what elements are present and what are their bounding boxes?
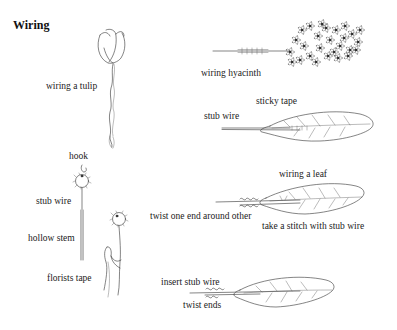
hyacinth-floret-center xyxy=(357,41,359,43)
label-twist-ends: twist ends xyxy=(183,301,221,311)
hyacinth-floret-center xyxy=(291,61,293,63)
label-wiring-hyacinth: wiring hyacinth xyxy=(201,69,261,79)
hyacinth-floret-center xyxy=(349,49,351,51)
label-twist-one-end: twist one end around other xyxy=(150,212,251,222)
hyacinth-floret-center xyxy=(333,51,335,53)
hyacinth-floret-center xyxy=(301,29,303,31)
hyacinth-floret-center xyxy=(309,55,311,57)
hyacinth-floret-center xyxy=(359,29,361,31)
hyacinth-floret-center xyxy=(339,45,341,47)
label-wiring-a-tulip: wiring a tulip xyxy=(46,82,97,92)
hyacinth-floret-center xyxy=(325,27,327,29)
hyacinth-floret-center xyxy=(289,51,291,53)
taped-flower-illustration xyxy=(104,211,128,297)
label-stub-wire-leaf: stub wire xyxy=(204,112,239,122)
hyacinth-floret-center xyxy=(329,39,331,41)
tulip-illustration xyxy=(98,29,125,148)
label-hook: hook xyxy=(69,152,88,162)
hyacinth-floret-center xyxy=(347,55,349,57)
label-hollow-stem: hollow stem xyxy=(28,234,75,244)
hyacinth-floret-center xyxy=(327,55,329,57)
hyacinth-floret-center xyxy=(315,61,317,63)
label-florists-tape: florists tape xyxy=(47,274,92,284)
hyacinth-floret-center xyxy=(319,47,321,49)
hyacinth-floret-center xyxy=(299,59,301,61)
leaf-tape-illustration xyxy=(222,112,373,141)
hyacinth-floret-center xyxy=(309,25,311,27)
hook-flower-illustration xyxy=(73,165,91,260)
label-sticky-tape: sticky tape xyxy=(256,97,297,107)
hyacinth-floret-center xyxy=(351,33,353,35)
label-insert-stub-wire: insert stub wire xyxy=(161,278,220,288)
hyacinth-floret-center xyxy=(321,23,323,25)
hyacinth-floret-center xyxy=(303,45,305,47)
hyacinth-floret-center xyxy=(343,37,345,39)
label-wiring-a-leaf: wiring a leaf xyxy=(279,170,327,180)
hyacinth-floret-center xyxy=(295,39,297,41)
hyacinth-illustration xyxy=(213,19,364,66)
label-stub-wire: stub wire xyxy=(36,197,71,207)
hyacinth-floret-center xyxy=(337,57,339,59)
hyacinth-floret-center xyxy=(355,49,357,51)
hyacinth-floret-center xyxy=(317,35,319,37)
hyacinth-floret-center xyxy=(344,25,346,27)
leaf-stitch-illustration xyxy=(216,184,364,214)
hyacinth-floret-center xyxy=(335,29,337,31)
label-take-a-stitch: take a stitch with stub wire xyxy=(262,222,364,232)
